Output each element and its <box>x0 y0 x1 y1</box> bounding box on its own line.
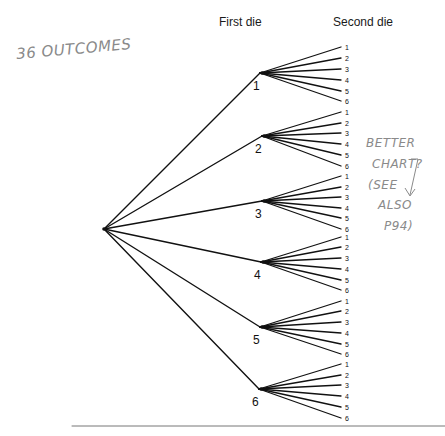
second-die-label: 3 <box>345 194 349 201</box>
first-die-label: 6 <box>252 395 259 409</box>
first-die-branch <box>104 229 261 262</box>
second-die-label: 6 <box>345 415 349 422</box>
second-die-label: 4 <box>345 266 349 273</box>
second-die-label: 4 <box>345 205 349 212</box>
second-die-label: 5 <box>345 88 349 95</box>
second-die-label: 5 <box>345 277 349 284</box>
node-dot <box>259 387 263 391</box>
side-handwritten-note: BETTERCHART?(SEEALSOP94) <box>366 137 423 241</box>
second-die-label: 3 <box>345 382 349 389</box>
second-die-label: 6 <box>345 287 349 294</box>
second-die-label: 6 <box>345 98 349 105</box>
second-die-label: 4 <box>345 141 349 148</box>
second-die-label: 1 <box>345 173 349 180</box>
second-die-label: 3 <box>345 319 349 326</box>
second-die-label: 6 <box>345 163 349 170</box>
second-die-label: 2 <box>345 184 349 191</box>
second-die-branch <box>259 389 341 407</box>
second-die-label: 5 <box>345 404 349 411</box>
first-die-label: 5 <box>253 333 260 347</box>
node-dot <box>261 260 265 264</box>
second-die-label: 6 <box>345 351 349 358</box>
second-die-label: 1 <box>345 361 349 368</box>
second-die-label: 4 <box>345 393 349 400</box>
second-die-label: 4 <box>345 77 349 84</box>
second-die-branch <box>261 262 341 290</box>
second-die-heading: Second die <box>333 15 393 29</box>
second-die-label: 5 <box>345 215 349 222</box>
node-dot <box>260 325 264 329</box>
side-note-line: P94) <box>384 220 423 234</box>
second-die-label: 1 <box>345 234 349 241</box>
second-die-branch <box>261 262 341 280</box>
side-note-line: (SEE <box>368 179 423 193</box>
second-die-label: 1 <box>345 44 349 51</box>
second-die-label: 6 <box>345 226 349 233</box>
side-note-line: ALSO <box>378 199 423 213</box>
second-die-label: 5 <box>345 341 349 348</box>
second-die-branch <box>260 73 341 80</box>
second-die-branch <box>260 73 341 91</box>
second-die-label: 2 <box>345 372 349 379</box>
second-die-label: 2 <box>345 244 349 251</box>
first-die-label: 1 <box>253 79 260 93</box>
side-note-line: CHART? <box>372 158 423 172</box>
second-die-label: 5 <box>345 152 349 159</box>
second-die-branch <box>262 112 341 136</box>
second-die-branch <box>262 201 341 208</box>
second-die-branch <box>261 262 341 269</box>
side-note-line: BETTER <box>366 137 423 151</box>
second-die-label: 2 <box>345 308 349 315</box>
second-die-label: 3 <box>345 66 349 73</box>
second-die-label: 4 <box>345 330 349 337</box>
second-die-branch <box>260 327 341 354</box>
second-die-label: 2 <box>345 55 349 62</box>
first-die-heading: First die <box>219 15 262 29</box>
first-die-branch <box>104 229 260 327</box>
second-die-branch <box>260 73 341 101</box>
second-die-branch <box>262 136 341 155</box>
second-die-label: 3 <box>345 130 349 137</box>
first-die-label: 3 <box>255 207 262 221</box>
second-die-branch <box>259 389 341 396</box>
second-die-label: 3 <box>345 255 349 262</box>
first-die-branch <box>104 229 259 389</box>
node-dot <box>260 71 264 75</box>
node-dot <box>262 134 266 138</box>
first-die-label: 2 <box>255 142 262 156</box>
second-die-label: 2 <box>345 120 349 127</box>
second-die-label: 1 <box>345 298 349 305</box>
node-dot <box>262 199 266 203</box>
second-die-branch <box>259 389 341 418</box>
second-die-label: 1 <box>345 109 349 116</box>
first-die-label: 4 <box>254 268 261 282</box>
root-node <box>102 227 106 231</box>
